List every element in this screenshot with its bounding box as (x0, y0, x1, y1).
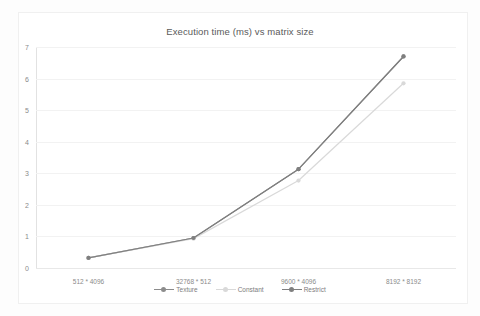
data-point-marker (401, 54, 405, 58)
plot-area: 01234567 512 * 409632768 * 5129600 * 409… (36, 47, 456, 268)
series-line (89, 56, 404, 257)
legend-label: Texture (176, 286, 197, 293)
x-tick-label: 9600 * 4096 (281, 278, 316, 285)
legend-marker-icon (282, 286, 302, 293)
series-line (89, 56, 404, 257)
y-tick-label: 1 (25, 233, 29, 240)
x-tick-label: 32768 * 512 (176, 278, 211, 285)
data-point-marker (86, 256, 90, 260)
y-tick-label: 4 (25, 138, 29, 145)
y-tick-label: 3 (25, 170, 29, 177)
chart-container: Execution time (ms) vs matrix size 01234… (0, 0, 480, 316)
series-line (89, 83, 404, 258)
gridline (36, 268, 456, 269)
legend-item[interactable]: Restrict (282, 286, 326, 293)
y-tick-label: 2 (25, 201, 29, 208)
legend-label: Constant (238, 286, 264, 293)
y-tick-label: 7 (25, 44, 29, 51)
x-tick-label: 512 * 4096 (73, 278, 104, 285)
legend-marker-icon (154, 286, 174, 293)
data-point-marker (191, 236, 195, 240)
chart-title: Execution time (ms) vs matrix size (0, 26, 480, 37)
y-tick-label: 0 (25, 265, 29, 272)
series-lines (36, 47, 456, 268)
chart-legend: TextureConstantRestrict (0, 286, 480, 293)
data-point-marker (296, 167, 300, 171)
data-point-marker (401, 81, 405, 85)
legend-marker-icon (216, 286, 236, 293)
data-point-marker (296, 178, 300, 182)
legend-item[interactable]: Constant (216, 286, 264, 293)
legend-label: Restrict (304, 286, 326, 293)
x-tick-label: 8192 * 8192 (386, 278, 421, 285)
legend-item[interactable]: Texture (154, 286, 197, 293)
y-tick-label: 6 (25, 75, 29, 82)
y-tick-label: 5 (25, 107, 29, 114)
